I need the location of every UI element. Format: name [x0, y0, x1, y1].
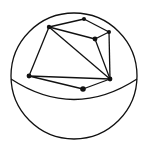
vertex-C	[107, 30, 111, 34]
graph-edges	[29, 19, 110, 89]
edge-C-E	[109, 32, 110, 79]
vertex-F	[80, 86, 86, 92]
vertex-E	[108, 77, 113, 82]
equator-arc	[11, 79, 137, 100]
vertex-G	[27, 74, 32, 79]
sphere-graph-diagram	[0, 0, 147, 149]
vertex-A	[47, 25, 51, 29]
edge-A-G	[29, 27, 49, 76]
edge-A-B	[49, 19, 84, 27]
edge-F-E	[83, 79, 110, 89]
vertex-B	[82, 17, 86, 21]
graph-vertices	[27, 17, 113, 92]
diagram-svg	[0, 0, 147, 149]
vertex-D	[93, 37, 98, 42]
